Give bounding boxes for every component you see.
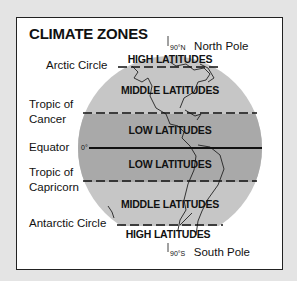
south-pole-label: 90°S South Pole (170, 242, 250, 260)
zone-high-latitudes-north: HIGH LATITUDES (128, 53, 213, 65)
tropic-of-capricorn-label-line1: Tropic of (29, 166, 73, 179)
north-pole-label: 90°N North Pole (170, 36, 248, 54)
equator-label: Equator (29, 141, 69, 154)
zone-low-latitudes-south: LOW LATITUDES (129, 158, 212, 170)
tropic-of-cancer-label-line2: Cancer (29, 113, 66, 126)
south-pole-text: South Pole (194, 246, 250, 258)
zone-middle-latitudes-north: MIDDLE LATITUDES (121, 84, 219, 96)
arctic-circle-label: Arctic Circle (46, 59, 107, 72)
zone-high-latitudes-south: HIGH LATITUDES (126, 228, 211, 240)
zone-low-latitudes-north: LOW LATITUDES (129, 124, 212, 136)
tropic-of-cancer-label-line1: Tropic of (29, 98, 73, 111)
tropic-of-capricorn-label-line2: Capricorn (29, 181, 79, 194)
north-pole-text: North Pole (194, 40, 248, 52)
diagram-title: CLIMATE ZONES (29, 25, 148, 42)
zone-middle-latitudes-south: MIDDLE LATITUDES (121, 198, 219, 210)
antarctic-circle-label: Antarctic Circle (29, 217, 106, 230)
north-pole-degree: 90°N (170, 44, 186, 51)
equator-degree: 0° (81, 144, 88, 151)
south-pole-degree: 90°S (170, 250, 185, 257)
